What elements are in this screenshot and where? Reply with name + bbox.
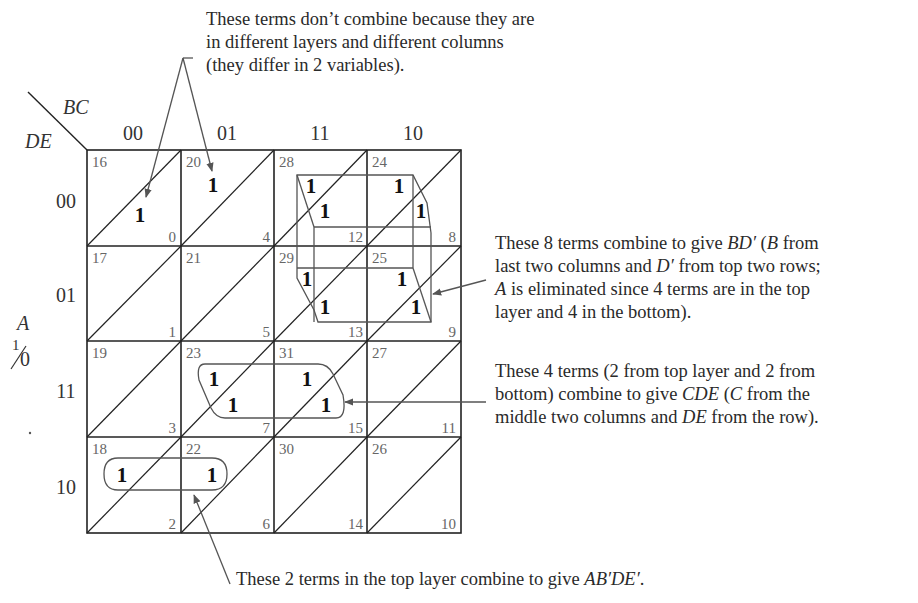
one-m23: 1 [209,367,220,391]
minterm-30: 30 [279,441,294,457]
row-label-10: 10 [56,476,76,498]
col-label-00: 00 [123,122,143,144]
minterm-5: 5 [263,324,271,340]
row-label-01: 01 [56,284,76,306]
one-m12: 1 [320,199,331,223]
note-no-combine-line1: These terms don’t combine because they a… [206,8,534,31]
minterm-29: 29 [279,250,294,266]
text: These 2 terms in the top layer combine t… [236,569,584,589]
text: ( [719,384,730,404]
one-m31: 1 [302,367,313,391]
minterm-7: 7 [263,420,271,436]
minterm-16: 16 [92,154,108,170]
var-c: C [730,384,742,404]
arrow-to-bd-prime [433,280,486,294]
minterm-0: 0 [169,229,177,245]
col-label-01: 01 [217,122,237,144]
text: These 4 terms (2 from top layer and 2 fr… [495,360,819,383]
minterm-24: 24 [372,154,388,170]
minterm-31: 31 [279,345,294,361]
expr-cde: CDE [682,384,719,404]
minterm-10: 10 [441,516,456,532]
one-m25: 1 [397,267,408,291]
one-m22: 1 [207,463,218,487]
text: bottom) combine to give [495,384,682,404]
minterm-12: 12 [348,229,363,245]
row-label-11: 11 [56,380,75,402]
col-label-10: 10 [403,122,423,144]
minterm-8: 8 [449,229,457,245]
minterm-21: 21 [186,250,201,266]
one-m15: 1 [321,393,332,417]
text: last two columns and [495,256,656,276]
minterm-1: 1 [169,324,177,340]
note-no-combine-line2: in different layers and different column… [206,31,534,54]
row-label-00: 00 [56,190,76,212]
minterm-25: 25 [372,250,387,266]
expr-bd-prime: BD′ [727,233,756,253]
one-m24: 1 [394,174,405,198]
note-cde: These 4 terms (2 from top layer and 2 fr… [495,360,819,429]
text: from top two rows; [674,256,821,276]
note-ab-de: These 2 terms in the top layer combine t… [236,568,644,591]
minterm-22: 22 [186,441,201,457]
minterm-23: 23 [186,345,201,361]
row-var-label: DE [24,130,52,152]
text: is eliminated since 4 terms are in the t… [506,279,810,299]
minterm-11: 11 [442,420,456,436]
note-no-combine: These terms don’t combine because they a… [206,8,534,77]
one-m28: 1 [306,174,317,198]
text: . [640,569,645,589]
text: middle two columns and [495,407,682,427]
one-m0: 1 [135,203,146,227]
expr-de: DE [682,407,707,427]
minterm-6: 6 [263,516,271,532]
layer-var-label: A [15,312,30,334]
layer-bottom-label: 0 [20,348,30,370]
one-m20: 1 [208,173,219,197]
col-var-label: BC [63,96,89,118]
minterm-13: 13 [348,324,363,340]
minterm-20: 20 [186,154,201,170]
text: ( [756,233,767,253]
note-bd-prime: These 8 terms combine to give BD′ (B fro… [495,232,821,324]
minterm-15: 15 [348,420,363,436]
layer-top-label: 1 [12,337,20,353]
one-m9: 1 [411,295,422,319]
var-b: B [767,233,778,253]
var-a: A [495,279,506,299]
text: These 8 terms combine to give [495,233,727,253]
minterm-17: 17 [92,250,108,266]
minterm-19: 19 [92,345,107,361]
one-m8: 1 [416,199,427,223]
one-m7: 1 [228,393,239,417]
col-label-11: 11 [310,122,329,144]
minterm-9: 9 [449,324,457,340]
minterm-27: 27 [372,345,388,361]
one-m18: 1 [117,463,128,487]
minterm-28: 28 [279,154,294,170]
expr-d-prime: D′ [656,256,673,276]
minterm-26: 26 [372,441,388,457]
one-m29: 1 [302,267,313,291]
text: from the [742,384,810,404]
minterm-2: 2 [169,516,177,532]
arrow-to-m0 [146,58,183,197]
text: from [778,233,819,253]
text: layer and 4 in the bottom). [495,301,821,324]
expr-ab-de: AB′DE′ [584,569,639,589]
arrow-to-ab-de [194,495,230,584]
minterm-18: 18 [92,441,107,457]
minterm-14: 14 [348,516,364,532]
note-no-combine-line3: (they differ in 2 variables). [206,54,534,77]
stray-dot [29,432,31,434]
text: from the row). [707,407,819,427]
one-m13: 1 [320,295,331,319]
minterm-3: 3 [169,420,177,436]
minterm-4: 4 [263,229,271,245]
